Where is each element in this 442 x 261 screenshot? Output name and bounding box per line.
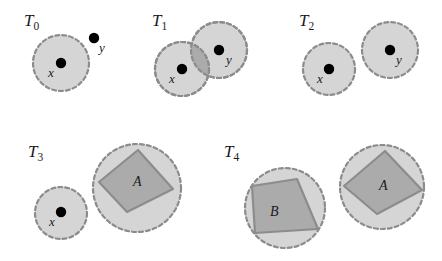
panel-t4: T4BA [224,142,424,248]
panel-label-t1: T1 [152,11,167,32]
point-x [56,207,66,217]
polygon-b-label: B [270,204,279,219]
point-x-label: x [168,71,175,86]
panel-label-subscript: 2 [308,20,314,32]
point-x [177,64,187,74]
panel-label-subscript: 3 [37,151,43,163]
panel-label-subscript: 4 [233,151,239,163]
panel-t3: T3Ax [28,142,181,239]
panel-label-t4: T4 [224,142,239,163]
point-y [89,33,99,43]
point-x-label: x [316,71,323,86]
panel-label-subscript: 1 [161,20,167,32]
point-y-label: y [224,52,232,67]
point-y-label: y [97,40,105,55]
panel-label-t0: T0 [24,11,39,32]
point-x [56,58,66,68]
polygon-a-label: A [378,178,388,193]
panel-label-t3: T3 [28,142,43,163]
panel-t1: T1xy [152,11,247,96]
polygon-a-label: A [132,174,142,189]
point-y-label: y [394,52,402,67]
point-x [324,64,334,74]
point-x-label: x [47,65,54,80]
panel-t0: T0xy [24,11,105,91]
figure-canvas: T0xyT1xyT2xyT3AxT4BA [0,0,442,261]
panel-label-subscript: 0 [33,20,39,32]
panel-t2: T2xy [299,11,418,95]
point-y [385,45,395,55]
point-x-label: x [48,214,55,229]
point-y [214,45,224,55]
topology-figure: T0xyT1xyT2xyT3AxT4BA [0,0,442,261]
panel-label-t2: T2 [299,11,314,32]
